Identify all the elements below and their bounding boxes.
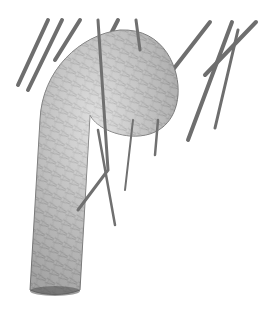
nest-entrance [30,286,80,296]
nest-drawing [0,0,274,316]
nest-illustration: Pencil illustration of a woven weaver-bi… [0,0,274,316]
